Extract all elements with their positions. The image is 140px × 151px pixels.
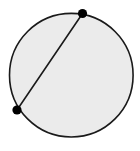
figure-canvas — [0, 0, 140, 151]
endpoint-dot-lower-left — [12, 105, 21, 114]
circle-shape — [10, 13, 134, 137]
endpoint-dot-upper-right — [78, 9, 87, 18]
circle-chord-diagram — [0, 0, 140, 151]
